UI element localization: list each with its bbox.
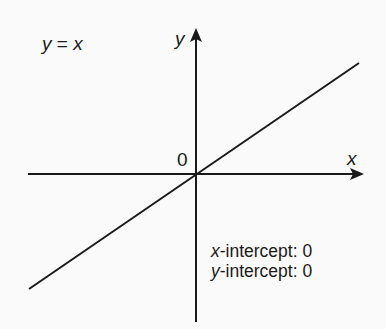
x-axis-label: x (347, 149, 357, 168)
x-intercept-var: x (211, 241, 220, 261)
y-axis-label: y (175, 29, 185, 48)
origin-label: 0 (177, 150, 188, 169)
equation-equals: = (52, 33, 74, 54)
equation-y: y (42, 33, 52, 54)
equation-label: y = x (42, 34, 83, 53)
y-intercept-var: y (211, 261, 220, 281)
y-intercept-text: -intercept: 0 (220, 261, 312, 281)
x-intercept-annotation: x-intercept: 0 (211, 243, 312, 261)
equation-x: x (73, 33, 83, 54)
y-intercept-annotation: y-intercept: 0 (211, 263, 312, 281)
x-intercept-text: -intercept: 0 (220, 241, 312, 261)
